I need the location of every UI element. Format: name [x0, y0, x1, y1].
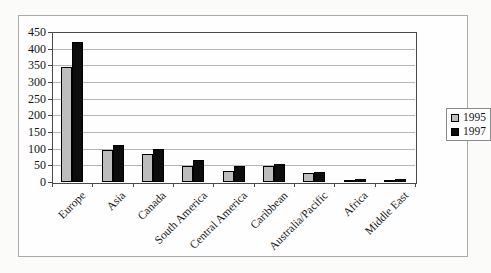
y-tick-label-250: 250: [14, 93, 46, 105]
y-tick-label-50: 50: [14, 159, 46, 171]
y-tick-250: [48, 99, 52, 100]
x-tick-9: [415, 183, 416, 187]
y-tick-label-400: 400: [14, 43, 46, 55]
x-tick-8: [375, 183, 376, 187]
legend-item-1997: 1997: [451, 126, 486, 137]
x-tick-3: [173, 183, 174, 187]
y-tick-150: [48, 132, 52, 133]
y-tick-label-100: 100: [14, 143, 46, 155]
legend-label-1995: 1995: [463, 112, 486, 123]
legend-swatch-1997: [451, 128, 459, 136]
y-tick-200: [48, 115, 52, 116]
y-tick-50: [48, 165, 52, 166]
x-tick-6: [294, 183, 295, 187]
y-tick-400: [48, 49, 52, 50]
y-tick-label-300: 300: [14, 76, 46, 88]
x-tick-4: [213, 183, 214, 187]
x-tick-1: [92, 183, 93, 187]
legend-swatch-1995: [451, 114, 459, 122]
legend: 1995 1997: [446, 108, 491, 141]
y-tick-label-0: 0: [14, 176, 46, 188]
y-tick-350: [48, 65, 52, 66]
x-tick-7: [334, 183, 335, 187]
legend-item-1995: 1995: [451, 112, 486, 123]
x-tick-0: [52, 183, 53, 187]
y-tick-label-150: 150: [14, 126, 46, 138]
y-tick-label-450: 450: [14, 26, 46, 38]
y-tick-label-200: 200: [14, 109, 46, 121]
plot-axis-border: [52, 32, 417, 184]
y-tick-label-350: 350: [14, 59, 46, 71]
y-tick-450: [48, 32, 52, 33]
scanned-bar-chart-figure: 1995 1997 050100150200250300350400450Eur…: [0, 0, 491, 273]
y-tick-100: [48, 149, 52, 150]
legend-label-1997: 1997: [463, 126, 486, 137]
y-tick-300: [48, 82, 52, 83]
x-tick-5: [254, 183, 255, 187]
x-tick-2: [133, 183, 134, 187]
